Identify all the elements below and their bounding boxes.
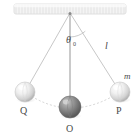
bob-O xyxy=(59,96,82,119)
bob-label-P: P xyxy=(116,105,122,116)
bob-Q xyxy=(15,82,36,103)
bob-label-Q: Q xyxy=(20,105,28,116)
pendulum-diagram-canvas: θ 0 l m Q O P xyxy=(0,0,140,140)
ceiling-bar-highlight xyxy=(14,4,126,7)
length-label-l: l xyxy=(105,40,108,51)
pendulum-figure: θ 0 l m Q O P xyxy=(0,0,140,140)
bob-O-sphere xyxy=(59,96,81,118)
bob-label-O: O xyxy=(66,123,73,134)
string-to-P xyxy=(70,13,120,92)
string-to-Q xyxy=(25,13,70,92)
angle-label-theta-subscript: 0 xyxy=(73,41,76,47)
bob-P-sphere xyxy=(110,82,130,102)
mass-label-m: m xyxy=(124,71,131,81)
bob-P xyxy=(110,82,131,103)
angle-label-theta: θ xyxy=(66,34,71,45)
pivot-point xyxy=(69,12,72,15)
bob-Q-sphere xyxy=(15,82,35,102)
